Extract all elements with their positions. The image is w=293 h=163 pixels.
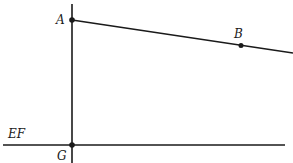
label-a: A [55,13,65,27]
geometry-diagram: A B EF G [0,0,293,163]
point-a [69,17,75,23]
label-ef: EF [7,127,26,141]
point-g [69,142,75,148]
label-b: B [233,27,243,41]
line-ab [72,20,293,53]
point-b [239,43,244,48]
label-g: G [57,149,67,163]
